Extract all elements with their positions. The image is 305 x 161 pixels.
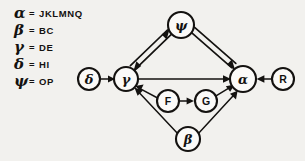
node-G-label: G [202, 95, 210, 107]
node-psi[interactable]: ψ [168, 12, 194, 38]
legend-symbol-alpha: α [14, 4, 26, 22]
legend-symbol-delta: δ [13, 55, 24, 73]
node-psi-label: ψ [175, 18, 188, 33]
node-alpha[interactable]: α [230, 66, 256, 92]
diagram-canvas: α = JKLMNQ β = BC γ = DE δ = HI ψ = [0, 0, 305, 161]
legend-separator-beta: = [29, 25, 35, 36]
legend-separator-delta: = [29, 59, 35, 70]
legend-value-psi: OP [39, 76, 54, 87]
node-R[interactable]: R [272, 68, 294, 90]
legend-value-gamma: DE [39, 42, 53, 53]
node-G[interactable]: G [195, 90, 217, 112]
legend-value-delta: HI [39, 59, 50, 70]
legend-separator-alpha: = [29, 8, 35, 19]
legend-symbol-beta: β [13, 21, 24, 39]
legend-separator-psi: = [29, 76, 35, 87]
legend-symbol-gamma: γ [14, 38, 25, 56]
node-beta-label: β [183, 132, 193, 147]
node-F[interactable]: F [157, 90, 179, 112]
node-gamma-label: γ [122, 72, 132, 87]
legend-value-beta: BC [39, 25, 54, 36]
node-F-label: F [165, 95, 172, 107]
legend-symbol-psi: ψ [14, 72, 29, 90]
node-alpha-label: α [238, 72, 248, 87]
figure-root: α = JKLMNQ β = BC γ = DE δ = HI ψ = [0, 0, 305, 161]
node-beta[interactable]: β [176, 127, 200, 151]
node-delta-label: δ [84, 72, 94, 87]
node-R-label: R [279, 73, 287, 85]
node-gamma[interactable]: γ [114, 67, 138, 91]
legend-separator-gamma: = [29, 42, 35, 53]
node-delta[interactable]: δ [78, 68, 100, 90]
legend-value-alpha: JKLMNQ [39, 8, 83, 19]
